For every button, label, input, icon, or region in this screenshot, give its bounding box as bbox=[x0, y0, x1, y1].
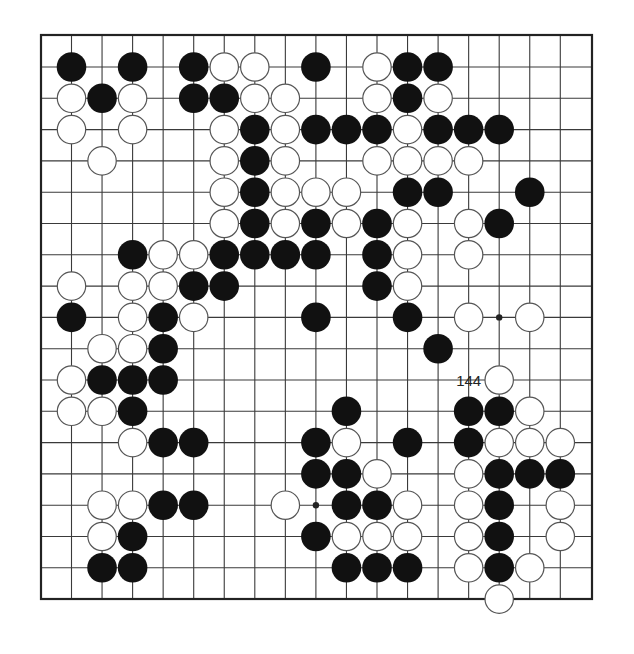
black-stone bbox=[393, 553, 423, 583]
white-stone bbox=[546, 428, 574, 456]
white-stone bbox=[180, 241, 208, 269]
black-stone bbox=[393, 52, 423, 82]
white-stone bbox=[454, 460, 482, 488]
black-stone bbox=[301, 522, 331, 552]
black-stone bbox=[515, 459, 545, 489]
white-stone bbox=[454, 209, 482, 237]
black-stone bbox=[484, 553, 514, 583]
white-stone bbox=[88, 397, 116, 425]
black-stone bbox=[179, 52, 209, 82]
black-stone bbox=[515, 177, 545, 207]
white-stone bbox=[516, 303, 544, 331]
white-stone bbox=[454, 303, 482, 331]
white-stone bbox=[546, 491, 574, 519]
white-stone bbox=[454, 241, 482, 269]
black-stone bbox=[240, 177, 270, 207]
white-stone bbox=[393, 491, 421, 519]
white-stone bbox=[516, 428, 544, 456]
white-stone bbox=[271, 178, 299, 206]
white-stone bbox=[149, 241, 177, 269]
black-stone bbox=[454, 397, 484, 427]
white-stone bbox=[424, 84, 452, 112]
white-stone bbox=[118, 303, 146, 331]
black-stone bbox=[87, 365, 117, 395]
white-stone bbox=[149, 272, 177, 300]
black-stone bbox=[454, 428, 484, 458]
black-stone bbox=[240, 240, 270, 270]
black-stone bbox=[332, 115, 362, 145]
white-stone bbox=[88, 147, 116, 175]
white-stone bbox=[57, 366, 85, 394]
white-stone bbox=[363, 53, 391, 81]
black-stone bbox=[423, 115, 453, 145]
white-stone bbox=[57, 272, 85, 300]
white-stone bbox=[454, 522, 482, 550]
black-stone bbox=[301, 303, 331, 333]
black-stone bbox=[393, 428, 423, 458]
white-stone bbox=[210, 147, 238, 175]
white-stone bbox=[180, 303, 208, 331]
black-stone bbox=[148, 365, 178, 395]
white-stone bbox=[363, 84, 391, 112]
white-stone bbox=[485, 428, 513, 456]
black-stone bbox=[362, 553, 392, 583]
black-stone bbox=[332, 490, 362, 520]
black-stone bbox=[271, 240, 301, 270]
black-stone bbox=[179, 84, 209, 114]
white-stone bbox=[241, 84, 269, 112]
white-stone bbox=[424, 147, 452, 175]
white-stone bbox=[393, 522, 421, 550]
black-stone bbox=[57, 52, 87, 82]
go-board: 144 bbox=[0, 0, 634, 654]
white-stone bbox=[332, 428, 360, 456]
white-stone bbox=[454, 554, 482, 582]
black-stone bbox=[209, 240, 239, 270]
black-stone bbox=[362, 490, 392, 520]
white-stone bbox=[393, 115, 421, 143]
white-stone bbox=[210, 209, 238, 237]
black-stone bbox=[332, 553, 362, 583]
black-stone bbox=[301, 209, 331, 239]
black-stone bbox=[118, 52, 148, 82]
white-stone bbox=[271, 209, 299, 237]
white-stone bbox=[454, 147, 482, 175]
black-stone bbox=[148, 428, 178, 458]
black-stone bbox=[393, 303, 423, 333]
white-stone bbox=[332, 178, 360, 206]
white-stone bbox=[271, 115, 299, 143]
black-stone bbox=[484, 459, 514, 489]
black-stone bbox=[87, 553, 117, 583]
black-stone bbox=[148, 490, 178, 520]
white-stone bbox=[332, 209, 360, 237]
black-stone bbox=[209, 84, 239, 114]
white-stone bbox=[118, 84, 146, 112]
black-stone bbox=[118, 553, 148, 583]
black-stone bbox=[179, 428, 209, 458]
white-stone bbox=[363, 147, 391, 175]
black-stone bbox=[118, 365, 148, 395]
white-stone bbox=[210, 53, 238, 81]
black-stone bbox=[362, 209, 392, 239]
black-stone bbox=[179, 490, 209, 520]
black-stone bbox=[362, 240, 392, 270]
white-stone bbox=[393, 209, 421, 237]
black-stone bbox=[240, 146, 270, 176]
black-stone bbox=[301, 459, 331, 489]
white-stone bbox=[516, 554, 544, 582]
white-stone bbox=[363, 460, 391, 488]
white-stone bbox=[454, 491, 482, 519]
black-stone bbox=[209, 271, 239, 301]
star-point bbox=[313, 502, 319, 508]
white-stone bbox=[332, 522, 360, 550]
white-stone bbox=[241, 53, 269, 81]
white-stone bbox=[485, 585, 513, 613]
black-stone bbox=[118, 397, 148, 427]
white-stone bbox=[302, 178, 330, 206]
black-stone bbox=[332, 459, 362, 489]
move-labels: 144 bbox=[456, 372, 481, 389]
move-number-label: 144 bbox=[456, 372, 481, 389]
white-stone bbox=[271, 84, 299, 112]
black-stone bbox=[179, 271, 209, 301]
black-stone bbox=[240, 115, 270, 145]
white-stone bbox=[88, 335, 116, 363]
